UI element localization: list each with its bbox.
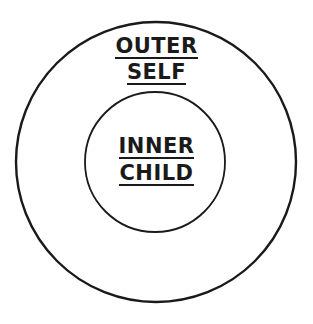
inner-child-label-line-2: CHILD — [0, 161, 313, 186]
outer-self-label-line-1: OUTER — [0, 34, 313, 59]
inner-child-label-line-1: INNER — [0, 134, 313, 159]
outer-self-label-line-2: SELF — [0, 60, 313, 85]
